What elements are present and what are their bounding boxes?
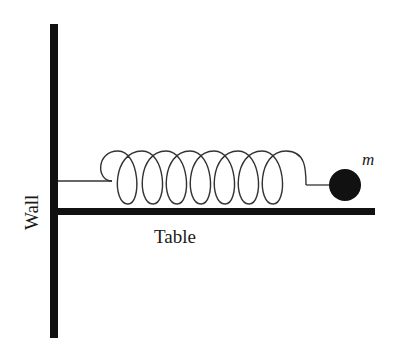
table-label: Table — [154, 226, 196, 247]
wall-bar — [50, 24, 58, 338]
wall-label: Wall — [21, 195, 42, 230]
spring-mass-diagram: m Table Wall — [0, 0, 396, 356]
mass-ball — [329, 169, 361, 201]
spring-coil — [101, 151, 306, 204]
table-bar — [58, 208, 375, 215]
mass-label: m — [362, 150, 374, 169]
